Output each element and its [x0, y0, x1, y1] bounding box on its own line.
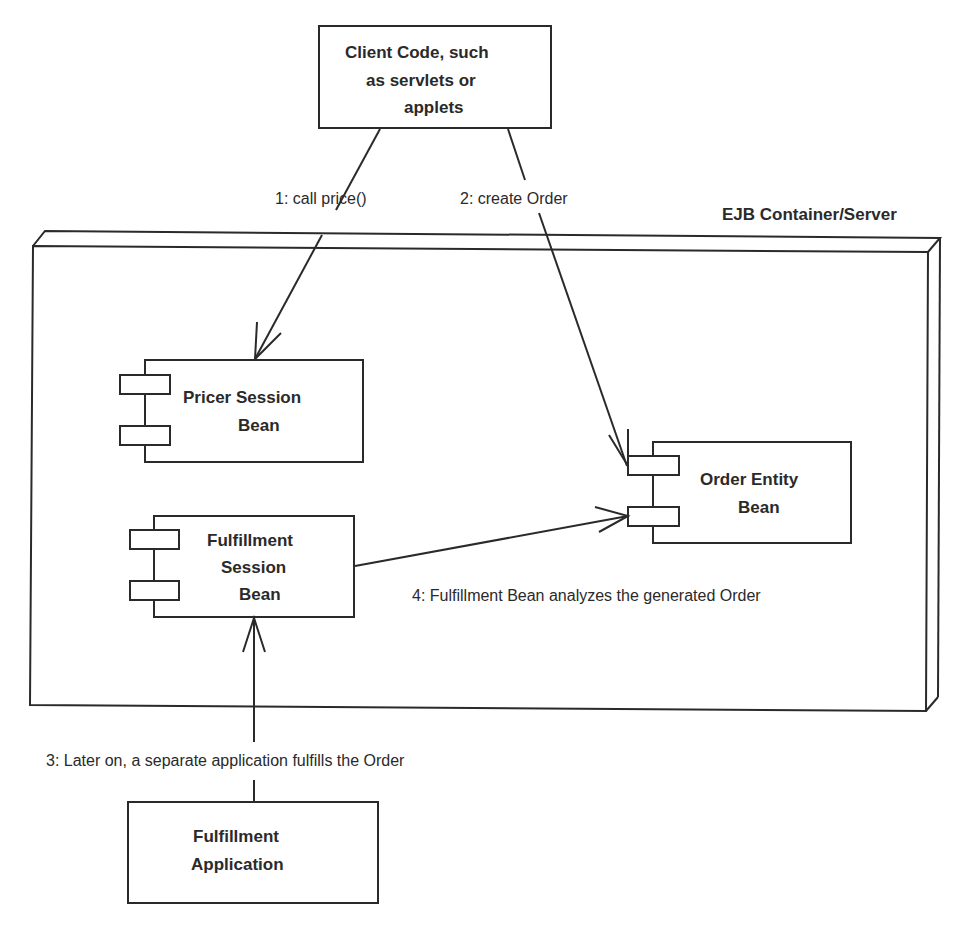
fulfillment-app-line-1: Fulfillment	[193, 827, 279, 846]
order-line-1: Order Entity	[700, 470, 799, 489]
call-price-label: 1: call price()	[275, 190, 367, 207]
fulfillment-bean-line-2: Session	[221, 558, 286, 577]
client-code-node[interactable]: Client Code, such as servlets or applets	[319, 26, 551, 128]
fulfillment-app-box	[128, 802, 378, 903]
fulfillment-bean-port-top	[130, 530, 179, 549]
fulfillment-bean-line-1: Fulfillment	[207, 531, 293, 550]
pricer-line-2: Bean	[238, 416, 280, 435]
order-entity-bean[interactable]: Order Entity Bean	[628, 442, 851, 543]
pricer-port-bottom	[120, 426, 170, 445]
pricer-port-top	[120, 375, 170, 394]
fulfillment-bean-line-3: Bean	[239, 585, 281, 604]
create-order-line-upper	[508, 129, 525, 180]
order-line-2: Bean	[738, 498, 780, 517]
order-body	[653, 442, 851, 543]
create-order-label: 2: create Order	[460, 190, 568, 207]
client-code-line-1: Client Code, such	[345, 43, 489, 62]
client-code-line-3: applets	[404, 98, 464, 117]
pricer-session-bean[interactable]: Pricer Session Bean	[120, 360, 363, 462]
pricer-body	[145, 360, 363, 462]
fulfillment-bean-port-bottom	[130, 581, 179, 600]
ejb-component-diagram: EJB Container/Server Client Code, such a…	[0, 0, 969, 939]
fulfill-order-label: 3: Later on, a separate application fulf…	[46, 752, 405, 769]
container-right-face-edge	[938, 238, 940, 697]
fulfillment-session-bean[interactable]: Fulfillment Session Bean	[130, 516, 354, 617]
container-right-face-bottom	[926, 697, 938, 711]
order-port-top	[628, 456, 679, 475]
fulfillment-app-line-2: Application	[191, 855, 284, 874]
client-code-line-2: as servlets or	[366, 71, 476, 90]
fulfillment-application[interactable]: Fulfillment Application	[128, 802, 378, 903]
order-port-bottom	[628, 507, 679, 526]
analyze-order-label: 4: Fulfillment Bean analyzes the generat…	[412, 587, 761, 604]
pricer-line-1: Pricer Session	[183, 388, 301, 407]
container-title: EJB Container/Server	[722, 205, 897, 224]
